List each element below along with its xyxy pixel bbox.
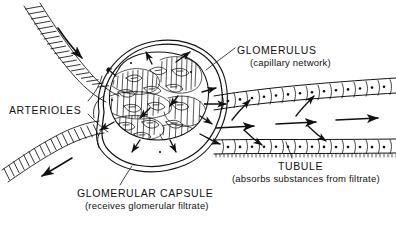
afferent-arteriole xyxy=(24,3,119,102)
label-glomerulus: GLOMERULUS xyxy=(237,44,317,56)
efferent-arteriole xyxy=(2,121,104,182)
label-arterioles: ARTERIOLES xyxy=(9,104,81,116)
tubule xyxy=(200,78,396,157)
label-tubule: TUBULE xyxy=(278,160,323,172)
label-glomerular-capsule: GLOMERULAR CAPSULE xyxy=(77,187,213,199)
label-glomerular-capsule-subtitle: (receives glomerular filtrate) xyxy=(85,200,209,211)
nephron-diagram: ARTERIOLES GLOMERULUS (capillary network… xyxy=(0,0,396,232)
label-tubule-subtitle: (absorbs substances from filtrate) xyxy=(232,173,380,184)
label-glomerulus-subtitle: (capillary network) xyxy=(250,57,331,68)
